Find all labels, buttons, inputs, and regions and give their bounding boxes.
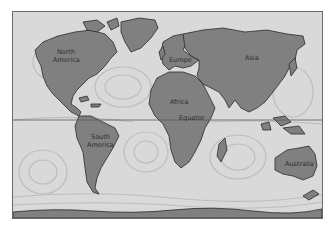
label-europe: Europe [169, 56, 192, 64]
label-north-america-1: North [57, 48, 75, 56]
continent-south-america [75, 116, 119, 194]
label-south-america-2: America [87, 141, 114, 149]
island-caribbean [79, 96, 101, 107]
label-africa: Africa [170, 98, 189, 106]
island-southeast-asia [261, 116, 305, 134]
map-canvas [13, 12, 322, 218]
world-map: North America South America Europe Asia … [12, 11, 323, 219]
label-south-america-1: South [91, 133, 110, 141]
continent-north-america [35, 30, 117, 116]
island-arctic [83, 18, 119, 32]
label-equator: Equator [179, 114, 205, 122]
label-north-america-2: America [53, 56, 80, 64]
label-australia: Australia [285, 160, 314, 168]
continent-antarctica [13, 208, 322, 218]
label-asia: Asia [245, 54, 259, 62]
island-new-zealand [303, 190, 319, 200]
island-greenland [121, 18, 158, 52]
